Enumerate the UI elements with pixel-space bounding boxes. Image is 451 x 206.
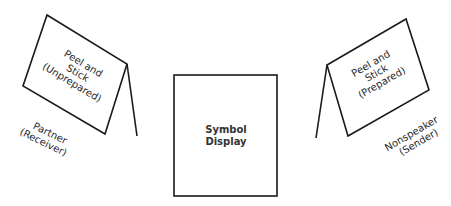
symbol-display: Symbol Display xyxy=(174,75,277,196)
symbol-display-line1: Symbol xyxy=(205,124,247,135)
nonspeaker-label: Nonspeaker (Sender) xyxy=(383,113,446,162)
left-card-back-leg xyxy=(127,64,137,136)
right-card-back-leg xyxy=(316,65,327,138)
partner-label: Partner (Receiver) xyxy=(18,116,74,158)
symbol-display-line2: Display xyxy=(205,136,247,147)
right-tent-card: Peel and Stick (Prepared) xyxy=(316,19,429,138)
communication-setup-diagram: Peel and Stick (Unprepared) Partner (Rec… xyxy=(0,0,451,206)
left-tent-card: Peel and Stick (Unprepared) xyxy=(23,15,137,136)
